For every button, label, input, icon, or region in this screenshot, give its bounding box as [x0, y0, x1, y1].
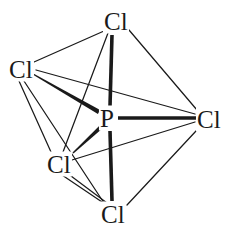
outline-edge: [72, 122, 195, 160]
outline-edge: [62, 175, 105, 204]
outline-edge: [24, 81, 104, 203]
atom-label-p-center: P: [99, 106, 115, 131]
atom-label-cl-lower-left: Cl: [46, 152, 72, 177]
outline-edge: [63, 33, 108, 152]
atom-label-cl-right: Cl: [196, 107, 222, 132]
outline-edge: [34, 31, 104, 62]
outline-edge: [19, 81, 51, 152]
pcl5-structure-figure: PClClClClCl: [0, 0, 229, 234]
bond-p-cl-bottom: [110, 131, 112, 201]
outline-edge: [127, 131, 196, 205]
atom-label-cl-top: Cl: [103, 9, 129, 34]
bond-p-cl-lower-left: [73, 126, 103, 154]
atom-label-cl-bottom: Cl: [100, 202, 126, 227]
bond-p-cl-top: [110, 35, 112, 106]
atom-label-cl-left: Cl: [8, 57, 34, 82]
outline-edge: [36, 70, 195, 114]
